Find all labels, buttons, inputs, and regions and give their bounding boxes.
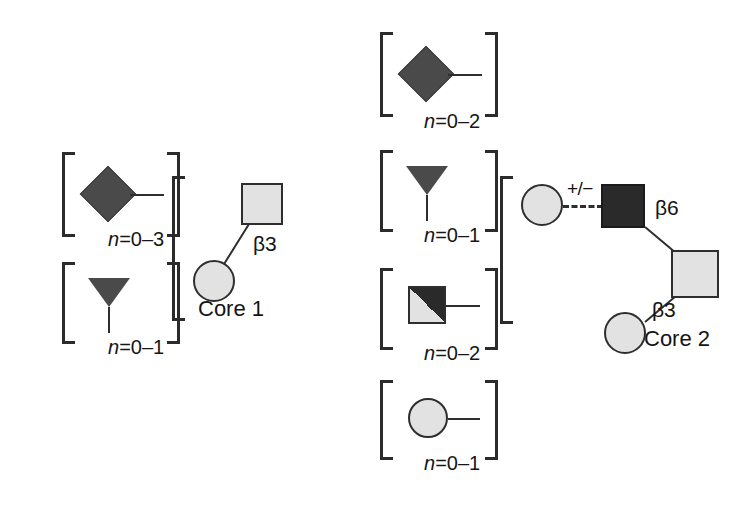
core2-beta3-linkage-label: β3 — [652, 298, 676, 322]
core2-beta6-linkage-label: β6 — [655, 196, 679, 220]
core2-name-label: Core 2 — [644, 326, 710, 352]
core2-galnac-square-symbol — [671, 250, 719, 298]
glycan-diagram-canvas: n=0–3 n=0–1 β3 Core 1 n=0–2 n=0–1 — [0, 0, 746, 505]
core2-linkage-lines — [0, 0, 746, 505]
core2-gal-circle-lower-symbol — [604, 312, 646, 354]
